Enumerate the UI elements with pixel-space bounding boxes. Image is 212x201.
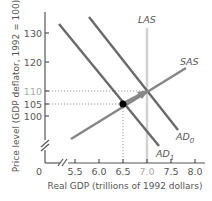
x-tick-7-5: 7.5 [163, 166, 178, 177]
y-tick-120: 120 [24, 57, 42, 68]
y-tick-100: 100 [24, 111, 42, 122]
y-tick-110: 110 [24, 86, 42, 97]
y-tick-labels: 130 120 110 105 100 [24, 28, 42, 122]
x-tick-6-0: 6.0 [91, 166, 106, 177]
x-tick-7-0: 7.0 [139, 166, 154, 177]
ad0-label: AD0 [175, 131, 195, 145]
ad1-label: AD1 [155, 148, 174, 162]
x-tick-6-5: 6.5 [115, 166, 130, 177]
y-axis-title: Price level (GDP deflator, 1992 = 100) [11, 0, 21, 172]
las-label: LAS [138, 14, 156, 25]
y-tick-130: 130 [24, 28, 42, 39]
sas-label: SAS [180, 56, 199, 67]
y-tick-105: 105 [24, 99, 42, 110]
axes [41, 12, 205, 166]
x-tick-8-0: 8.0 [187, 166, 202, 177]
x-axis-title: Real GDP (trillions of 1992 dollars) [48, 181, 203, 191]
x-tick-labels: 0 5.5 6.0 6.5 7.0 7.5 8.0 [36, 166, 203, 177]
aggregate-supply-demand-chart: 130 120 110 105 100 0 5.5 6.0 6.5 7.0 7.… [0, 0, 212, 201]
equilibrium-point [119, 100, 126, 107]
x-tick-5-5: 5.5 [67, 166, 82, 177]
x-tick-origin: 0 [36, 166, 42, 177]
movement-arrow [126, 90, 149, 102]
